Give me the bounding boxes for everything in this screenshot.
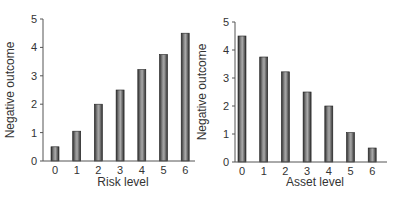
bar-5: [160, 55, 168, 162]
y-tick-label: 4: [223, 44, 229, 56]
y-axis-label: Negative outcome: [3, 41, 17, 138]
bar-3: [303, 92, 311, 162]
x-tick-label: 5: [160, 164, 166, 176]
bar-6: [181, 33, 189, 161]
x-axis-label: Asset level: [286, 175, 344, 189]
x-axis-label: Risk level: [97, 175, 148, 189]
bar-1: [73, 131, 81, 161]
x-tick-label: 5: [347, 165, 353, 177]
bar-2: [94, 104, 102, 161]
x-tick-label: 0: [239, 165, 245, 177]
bar-4: [138, 70, 146, 161]
asset-level-chart: 0123450123456Asset levelNegative outcome: [192, 0, 402, 203]
y-tick-label: 2: [223, 100, 229, 112]
risk-level-chart: 0123450123456Risk levelNegative outcome: [0, 0, 200, 203]
bar-0: [51, 147, 59, 161]
bar-6: [368, 148, 376, 162]
x-tick-label: 1: [261, 165, 267, 177]
x-tick-label: 0: [52, 164, 58, 176]
bar-1: [260, 57, 268, 162]
bar-4: [325, 106, 333, 162]
risk-level-chart-svg: 0123450123456Risk levelNegative outcome: [0, 0, 200, 203]
y-tick-label: 3: [223, 72, 229, 84]
y-tick-label: 3: [31, 70, 37, 82]
bar-3: [116, 90, 124, 161]
asset-level-chart-svg: 0123450123456Asset levelNegative outcome: [192, 0, 402, 203]
x-tick-label: 1: [74, 164, 80, 176]
y-tick-label: 5: [31, 13, 37, 25]
y-tick-label: 4: [31, 41, 37, 53]
y-tick-label: 2: [31, 98, 37, 110]
y-tick-label: 5: [223, 16, 229, 28]
y-tick-label: 1: [31, 127, 37, 139]
bar-0: [238, 36, 246, 162]
bar-5: [347, 133, 355, 162]
y-tick-label: 0: [223, 156, 229, 168]
y-tick-label: 0: [31, 155, 37, 167]
y-tick-label: 1: [223, 128, 229, 140]
x-tick-label: 6: [182, 164, 188, 176]
bar-2: [281, 72, 289, 162]
y-axis-label: Negative outcome: [195, 43, 209, 140]
x-tick-label: 6: [369, 165, 375, 177]
